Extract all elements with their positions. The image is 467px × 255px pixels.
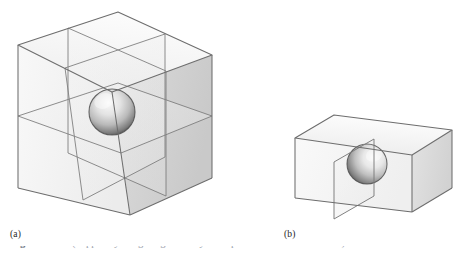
figure-panel-b xyxy=(272,0,467,232)
center-sphere xyxy=(89,89,135,135)
figure-caption-text: (clipped by image edge — only the tops o… xyxy=(72,246,345,248)
figure-caption: Figure 22.25 (clipped by image edge — on… xyxy=(10,246,460,248)
figure-root: (a) (b) Figure 22.25 (clipped by image e… xyxy=(0,0,467,255)
figure-panel-a xyxy=(0,0,240,232)
cube-octree-illustration xyxy=(0,0,240,232)
box-subdivision-illustration xyxy=(272,0,467,232)
figure-caption-row: Figure 22.25 (clipped by image edge — on… xyxy=(0,246,467,255)
figure-number: Figure 22.25 xyxy=(10,246,69,248)
panel-label-b: (b) xyxy=(284,229,296,239)
panel-label-a: (a) xyxy=(10,229,21,239)
